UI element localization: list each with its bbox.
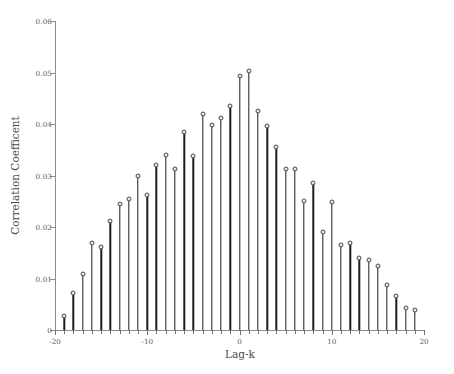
x-tick-mark xyxy=(156,330,157,334)
x-tick-mark xyxy=(258,330,259,334)
x-tick-mark xyxy=(221,330,222,334)
data-point-marker xyxy=(403,306,408,311)
x-tick-mark xyxy=(396,330,397,334)
stem-line xyxy=(211,125,212,330)
x-tick-mark xyxy=(129,330,130,334)
stem-line xyxy=(322,232,323,330)
x-tick-mark xyxy=(240,330,241,335)
data-point-marker xyxy=(366,258,371,263)
stem-plot-figure: 00.010.020.030.040.050.06 -20-1001020 La… xyxy=(0,0,454,374)
stem-line xyxy=(239,76,240,330)
x-tick-mark xyxy=(304,330,305,334)
x-tick-mark xyxy=(193,330,194,334)
stem-line xyxy=(119,204,120,330)
data-point-marker xyxy=(219,115,224,120)
data-point-marker xyxy=(191,154,196,159)
stem-line xyxy=(91,243,92,330)
data-point-marker xyxy=(154,163,159,168)
x-tick-mark xyxy=(212,330,213,334)
data-point-marker xyxy=(255,108,260,113)
x-tick-mark xyxy=(359,330,360,334)
data-point-marker xyxy=(265,123,270,128)
y-tick-label: 0.06 xyxy=(36,17,52,26)
y-tick-label: 0.03 xyxy=(36,171,52,180)
x-tick-label: -10 xyxy=(141,337,153,346)
stem-line xyxy=(156,165,157,330)
data-point-marker xyxy=(209,122,214,127)
x-tick-mark xyxy=(406,330,407,334)
data-point-marker xyxy=(182,129,187,134)
data-point-marker xyxy=(385,282,390,287)
stem-line xyxy=(257,111,258,330)
data-point-marker xyxy=(348,241,353,246)
stem-line xyxy=(368,260,369,330)
x-tick-mark xyxy=(267,330,268,334)
x-tick-mark xyxy=(175,330,176,334)
stem-line xyxy=(405,308,406,330)
x-tick-mark xyxy=(286,330,287,334)
x-tick-mark xyxy=(64,330,65,334)
stem-line xyxy=(183,132,184,330)
x-tick-mark xyxy=(276,330,277,334)
x-tick-mark xyxy=(424,330,425,335)
x-tick-mark xyxy=(203,330,204,334)
data-point-marker xyxy=(62,313,67,318)
data-point-marker xyxy=(163,153,168,158)
data-point-marker xyxy=(394,294,399,299)
stem-line xyxy=(340,245,341,330)
data-point-marker xyxy=(329,200,334,205)
x-tick-mark xyxy=(378,330,379,334)
y-tick-label: 0.02 xyxy=(36,223,52,232)
stem-line xyxy=(248,71,249,330)
data-point-marker xyxy=(136,174,141,179)
data-point-marker xyxy=(375,264,380,269)
data-point-marker xyxy=(89,241,94,246)
x-tick-mark xyxy=(323,330,324,334)
data-point-marker xyxy=(283,166,288,171)
stem-line xyxy=(128,199,129,330)
x-tick-mark xyxy=(387,330,388,334)
data-point-marker xyxy=(237,73,242,78)
data-point-marker xyxy=(311,181,316,186)
data-point-marker xyxy=(71,290,76,295)
stem-line xyxy=(349,243,350,330)
x-tick-mark xyxy=(92,330,93,334)
stem-line xyxy=(202,114,203,330)
x-tick-label: 20 xyxy=(419,337,428,346)
stem-line xyxy=(174,169,175,330)
x-axis-label: Lag-k xyxy=(55,348,425,360)
stem-line xyxy=(100,247,101,330)
data-point-marker xyxy=(338,242,343,247)
stem-line xyxy=(230,106,231,330)
data-point-marker xyxy=(246,68,251,73)
data-point-marker xyxy=(80,272,85,277)
stem-line xyxy=(276,147,277,330)
stem-line xyxy=(110,221,111,330)
x-tick-mark xyxy=(369,330,370,334)
data-point-marker xyxy=(412,308,417,313)
stem-line xyxy=(266,126,267,330)
stem-line xyxy=(331,202,332,330)
stem-line xyxy=(396,296,397,330)
x-tick-mark xyxy=(341,330,342,334)
data-point-marker xyxy=(274,144,279,149)
y-tick-label: 0 xyxy=(47,326,52,335)
stem-line xyxy=(220,118,221,330)
y-tick-label: 0.05 xyxy=(36,68,52,77)
data-point-marker xyxy=(172,166,177,171)
x-tick-mark xyxy=(147,330,148,335)
data-point-marker xyxy=(292,166,297,171)
stem-line xyxy=(193,156,194,330)
x-tick-mark xyxy=(110,330,111,334)
x-tick-mark xyxy=(350,330,351,334)
data-point-marker xyxy=(200,112,205,117)
x-tick-mark xyxy=(230,330,231,334)
y-axis-label: Correlation Coefficent xyxy=(8,21,22,330)
data-point-marker xyxy=(126,197,131,202)
x-tick-mark xyxy=(120,330,121,334)
stem-line xyxy=(137,176,138,330)
stem-line xyxy=(285,169,286,330)
data-point-marker xyxy=(320,230,325,235)
data-point-marker xyxy=(357,255,362,260)
stem-line xyxy=(386,285,387,330)
